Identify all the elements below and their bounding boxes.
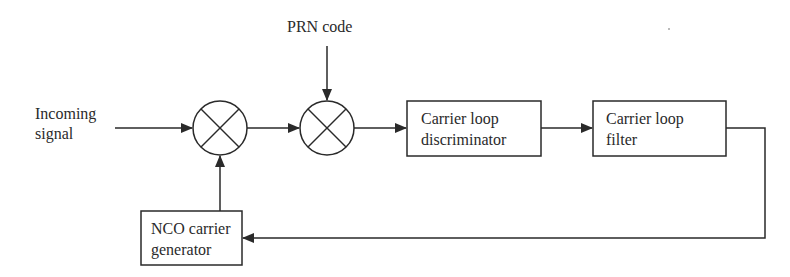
nco-label-line2: generator (151, 239, 211, 260)
diagram-canvas (0, 0, 790, 277)
discriminator-label-line2: discriminator (421, 129, 506, 150)
incoming-signal-label-line2: signal (35, 124, 73, 144)
mixer2-multiplier-icon (300, 101, 354, 155)
discriminator-label-line1: Carrier loop (421, 108, 499, 129)
mixer1-multiplier-icon (193, 101, 247, 155)
filter-label-line2: filter (606, 129, 637, 150)
prn-code-label: PRN code (287, 17, 352, 37)
nco-label-line1: NCO carrier (151, 218, 231, 239)
speck-artifact (668, 28, 670, 30)
incoming-signal-label-line1: Incoming (35, 104, 96, 124)
filter-label-line1: Carrier loop (606, 108, 684, 129)
